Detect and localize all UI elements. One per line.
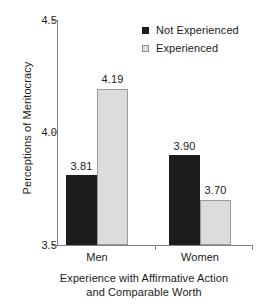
legend-swatch-black-square-icon xyxy=(142,27,149,34)
x-axis-title-line-2: and Comparable Worth xyxy=(30,285,258,299)
legend-label-experienced: Experienced xyxy=(156,42,218,54)
legend-item-not-experienced: Not Experienced xyxy=(142,22,239,38)
bar-men-experienced xyxy=(97,89,128,245)
x-axis-group-divider xyxy=(155,245,156,250)
legend-swatch-light-gray-square-icon xyxy=(142,45,149,52)
x-axis-title-line-1: Experience with Affirmative Action xyxy=(30,271,258,285)
y-tick-mark-4-5 xyxy=(52,20,57,21)
y-tick-mark-4-0 xyxy=(52,132,57,133)
bar-value-women-experienced: 3.70 xyxy=(194,184,237,196)
bar-men-not-experienced xyxy=(66,175,97,245)
bar-value-men-experienced: 4.19 xyxy=(91,73,134,85)
bar-women-experienced xyxy=(200,200,231,245)
y-axis-title: Perceptions of Meritocracy xyxy=(21,33,33,223)
meritocracy-bar-chart: 4.5 4.0 3.5 Perceptions of Meritocracy M… xyxy=(0,0,263,304)
x-group-label-women: Women xyxy=(164,251,236,264)
bar-value-women-not-experienced: 3.90 xyxy=(163,140,206,152)
bar-women-not-experienced xyxy=(169,155,200,245)
x-axis-title: Experience with Affirmative Action and C… xyxy=(30,271,258,299)
chart-legend: Not Experienced Experienced xyxy=(142,22,239,58)
y-axis-line xyxy=(57,20,58,246)
x-axis-endcap xyxy=(252,245,253,250)
x-group-label-men: Men xyxy=(62,251,132,264)
legend-label-not-experienced: Not Experienced xyxy=(156,24,239,36)
legend-item-experienced: Experienced xyxy=(142,40,239,56)
